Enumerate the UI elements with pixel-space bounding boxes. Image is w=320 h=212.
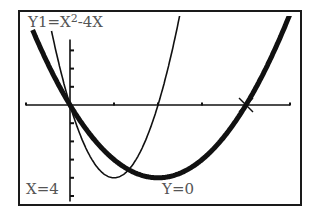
y-readout: Y=0	[162, 182, 194, 197]
x-readout: X=4	[26, 182, 59, 197]
function-label: Y1=X2-4X	[28, 13, 103, 30]
curves	[33, 14, 290, 178]
